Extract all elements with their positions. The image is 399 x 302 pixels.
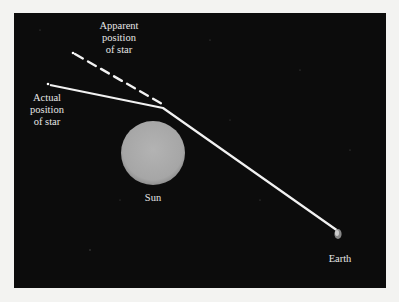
actual-light-path	[50, 85, 338, 231]
earth-label: Earth	[320, 253, 360, 265]
apparent-position-label: Apparent position of star	[90, 20, 148, 56]
label-line: position	[22, 104, 72, 116]
label-line: of star	[22, 116, 72, 128]
apparent-light-path	[75, 54, 164, 105]
label-line: of star	[90, 44, 148, 56]
actual-star-icon	[47, 83, 50, 86]
sun-label: Sun	[130, 192, 176, 204]
background-speckles	[39, 29, 350, 250]
actual-position-label: Actual position of star	[22, 92, 72, 128]
earth-icon	[334, 229, 341, 239]
apparent-star-icon	[72, 52, 75, 55]
label-line: Actual	[22, 92, 72, 104]
sun-icon	[121, 121, 185, 185]
label-line: Apparent	[90, 20, 148, 32]
label-line: position	[90, 32, 148, 44]
